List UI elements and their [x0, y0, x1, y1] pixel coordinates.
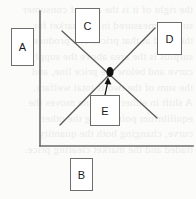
callout-label-d: D: [166, 33, 174, 45]
equilibrium-point-marker: [107, 67, 114, 77]
callout-box-b[interactable]: B: [70, 158, 93, 191]
callout-label-c: C: [84, 20, 92, 32]
callout-box-d[interactable]: D: [157, 22, 182, 55]
callout-box-c[interactable]: C: [75, 8, 100, 43]
callout-label-e: E: [101, 105, 108, 117]
callout-box-a[interactable]: A: [11, 28, 34, 66]
diagram-page: the right of it is the area of consumer …: [0, 0, 196, 199]
callout-label-a: A: [19, 41, 26, 53]
callout-label-b: B: [78, 169, 85, 181]
callout-box-e[interactable]: E: [90, 95, 120, 126]
